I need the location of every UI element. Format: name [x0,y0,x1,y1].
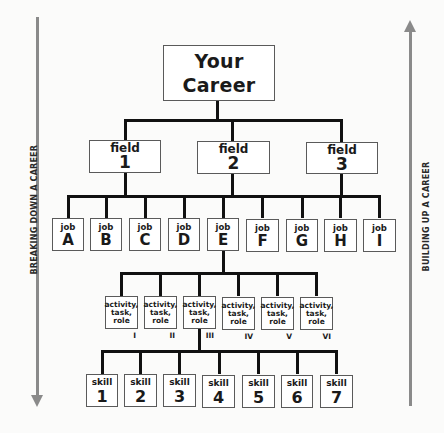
job-box-h: job H [324,219,357,252]
connector [139,350,142,374]
skill-box-3: skill 3 [163,374,196,407]
field-box-2: field 2 [197,141,270,174]
skill-box-6: skill 6 [281,375,313,408]
job-id: G [296,233,308,249]
activity-box-6: activity, task, role [300,297,333,330]
connector [178,350,181,374]
connector [159,272,162,296]
skill-label: skill [130,377,151,388]
activity-line: role [191,317,208,325]
activity-line: role [113,317,130,325]
field-box-3: field 3 [306,142,378,174]
job-box-f: job F [246,219,279,252]
job-id: F [257,233,267,249]
activity-box-1: activity, task, role [105,296,138,329]
skill-label: skill [92,377,113,388]
activity-box-3: activity, task, role [183,296,216,329]
connector [296,350,299,374]
arrow-down-icon [31,395,43,407]
connector [222,195,225,218]
connector [339,195,342,218]
connector [276,272,279,296]
job-label: job [99,222,114,232]
job-id: E [218,232,228,248]
activity-numeral: VI [311,332,331,341]
field-id: 1 [119,154,131,171]
job-id: B [100,232,111,248]
activity-line: role [152,317,169,325]
connector [101,350,104,374]
job-box-a: job A [52,218,84,251]
skill-box-1: skill 1 [86,374,118,407]
job-box-b: job B [90,218,122,251]
connector [340,119,343,142]
skill-id: 1 [96,388,107,405]
root-career-box: Your Career [163,45,275,101]
skill-label: skill [287,378,308,389]
job-label: job [177,222,192,232]
arrow-shaft [409,30,412,406]
job-label: job [333,223,348,233]
job-label: job [295,223,310,233]
root-line-1: Your [194,49,243,73]
connector [120,272,123,296]
connector [120,272,318,275]
connector [231,119,234,141]
job-box-c: job C [129,218,161,251]
skill-id: 3 [174,388,185,405]
job-label: job [216,222,231,232]
connector [257,350,260,374]
skill-id: 4 [213,389,224,406]
skill-id: 2 [135,388,146,405]
connector [335,350,338,374]
job-id: I [377,233,383,249]
skill-label: skill [169,377,190,388]
activity-numeral: III [194,331,214,340]
job-box-e: job E [207,218,239,251]
activity-box-4: activity, task, role [222,297,255,330]
activity-numeral: V [272,332,292,341]
skill-id: 6 [291,389,302,406]
connector [237,272,240,296]
job-box-d: job D [168,218,200,251]
skill-box-5: skill 5 [242,375,275,408]
activity-box-5: activity, task, role [261,297,294,330]
job-label: job [255,223,270,233]
activity-numeral: II [155,331,175,340]
job-label: job [138,222,153,232]
field-box-1: field 1 [89,140,161,173]
job-box-i: job I [363,219,396,252]
skill-id: 5 [253,389,264,406]
activity-line: role [308,318,325,326]
activity-numeral: I [116,331,136,340]
activity-line: role [230,318,247,326]
connector [301,195,304,218]
job-label: job [372,223,387,233]
connector [124,119,127,141]
skill-id: 7 [331,389,342,406]
activity-numeral: IV [233,332,253,341]
job-id: A [62,232,74,248]
connector [183,195,186,218]
job-box-g: job G [286,219,318,252]
activity-box-2: activity, task, role [144,296,177,329]
connector [144,195,147,218]
job-id: H [334,233,347,249]
skill-box-7: skill 7 [320,375,353,408]
connector [315,272,318,296]
activity-line: role [269,318,286,326]
field-id: 2 [228,155,240,172]
connector [261,195,264,218]
connector [105,195,108,218]
connector [378,195,381,218]
skill-label: skill [248,378,269,389]
job-id: C [139,232,150,248]
building-up-label: BUILDING UP A CAREER [422,162,431,272]
skill-box-4: skill 4 [202,375,235,408]
skill-label: skill [208,378,229,389]
skill-label: skill [326,378,347,389]
breaking-down-label: BREAKING DOWN A CAREER [30,155,39,275]
connector [67,195,70,218]
root-line-2: Career [182,73,255,97]
connector [218,350,221,374]
